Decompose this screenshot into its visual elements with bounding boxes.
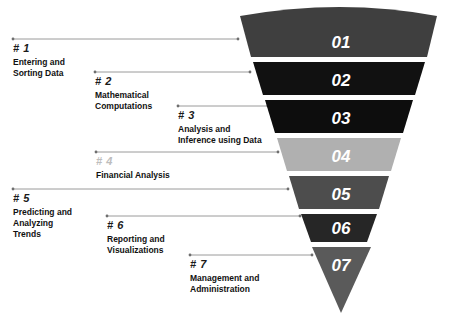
funnel-band-04-number: 04 (332, 147, 351, 166)
step-5-line-3: Trends (13, 229, 72, 240)
funnel-band-05-number: 05 (332, 185, 351, 204)
step-4-number: # 4 (96, 155, 170, 168)
connector-line-7 (189, 254, 314, 257)
step-3-line-1: Analysis and (178, 124, 262, 135)
step-4-line-1: Financial Analysis (96, 170, 170, 181)
step-1-description: Entering and Sorting Data (13, 57, 65, 79)
step-4-description: Financial Analysis (96, 170, 170, 181)
step-3-line-2: Inference using Data (178, 135, 262, 146)
connector-line-3 (177, 105, 270, 108)
step-6-number: # 6 (107, 219, 165, 232)
funnel-diagram: 01 02 03 04 05 06 07 # 1 Entering and So… (0, 0, 450, 321)
funnel-band-06-number: 06 (332, 219, 351, 238)
connector-line-4 (95, 151, 280, 154)
step-7-description: Management and Administration (190, 273, 259, 295)
step-6-line-1: Reporting and (107, 234, 165, 245)
step-label-6: # 6 Reporting and Visualizations (107, 219, 165, 256)
step-label-5: # 5 Predicting and Analyzing Trends (13, 192, 72, 240)
funnel-band-02-number: 02 (332, 71, 351, 90)
step-2-number: # 2 (95, 75, 152, 88)
funnel-band-01-number: 01 (332, 33, 351, 52)
step-7-number: # 7 (190, 258, 259, 271)
step-2-line-2: Computations (95, 101, 152, 112)
step-1-line-1: Entering and (13, 57, 65, 68)
connector-line-6 (106, 215, 302, 218)
step-5-line-1: Predicting and (13, 207, 72, 218)
funnel-bands: 01 02 03 04 05 06 07 (240, 7, 437, 313)
step-label-3: # 3 Analysis and Inference using Data (178, 109, 262, 146)
step-6-line-2: Visualizations (107, 245, 165, 256)
step-1-line-2: Sorting Data (13, 68, 65, 79)
step-label-2: # 2 Mathematical Computations (95, 75, 152, 112)
step-1-number: # 1 (13, 42, 65, 55)
connector-line-2 (94, 71, 252, 74)
step-5-description: Predicting and Analyzing Trends (13, 207, 72, 240)
step-2-description: Mathematical Computations (95, 90, 152, 112)
step-label-7: # 7 Management and Administration (190, 258, 259, 295)
step-7-line-2: Administration (190, 284, 259, 295)
step-3-description: Analysis and Inference using Data (178, 124, 262, 146)
connector-line-5 (12, 188, 290, 191)
connector-line-1 (12, 38, 240, 41)
funnel-band-03-number: 03 (332, 109, 351, 128)
step-label-1: # 1 Entering and Sorting Data (13, 42, 65, 79)
step-5-number: # 5 (13, 192, 72, 205)
step-7-line-1: Management and (190, 273, 259, 284)
step-6-description: Reporting and Visualizations (107, 234, 165, 256)
funnel-band-07-number: 07 (332, 256, 352, 275)
step-label-4: # 4 Financial Analysis (96, 155, 170, 181)
step-5-line-2: Analyzing (13, 218, 72, 229)
step-2-line-1: Mathematical (95, 90, 152, 101)
step-3-number: # 3 (178, 109, 262, 122)
